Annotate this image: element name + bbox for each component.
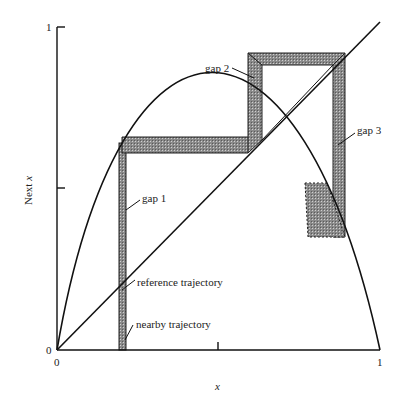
tick-x0: 0 (54, 356, 60, 368)
label-nearby-trajectory: nearby trajectory (136, 318, 211, 330)
tick-y0: 0 (46, 344, 52, 356)
label-reference-trajectory: reference trajectory (137, 276, 223, 288)
gap2-vertical-band (248, 53, 262, 153)
label-gap1: gap 1 (142, 192, 166, 204)
tick-x1: 1 (377, 356, 383, 368)
label-gap2: gap 2 (205, 62, 229, 74)
inner-diag-segment (262, 65, 333, 140)
cobweb-diagram: gap 1 gap 2 gap 3 reference trajectory n… (0, 0, 404, 412)
top-horizontal-band (248, 53, 345, 65)
y-axis-label: Next x (22, 176, 34, 205)
gap1-vertical-band (119, 143, 126, 350)
x-axis-label: x (214, 380, 220, 392)
gap1-horizontal-band (122, 137, 262, 153)
label-gap3: gap 3 (357, 124, 382, 136)
tick-y1: 1 (46, 21, 52, 33)
